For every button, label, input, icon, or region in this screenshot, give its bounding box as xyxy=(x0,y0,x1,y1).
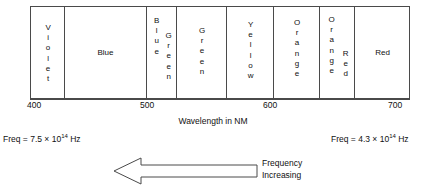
band-label-blue: Blue xyxy=(65,48,146,56)
frequency-label-left: Freq = 7.5 × 1014 Hz xyxy=(3,134,81,144)
band-label-red: Red xyxy=(355,48,410,56)
wavelength-axis-line xyxy=(30,99,410,100)
band-red: Red xyxy=(355,7,410,98)
band-label-yellow: Yellow xyxy=(246,20,254,81)
band-blue: Blue xyxy=(65,7,147,98)
arrow-caption: Frequency Increasing xyxy=(262,158,302,181)
band-label-green: Green xyxy=(164,31,172,82)
band-orange-red: Orange Red xyxy=(320,7,355,98)
frequency-left-exponent: 14 xyxy=(61,133,68,139)
frequency-right-text: Freq = 4.3 × 10 xyxy=(331,134,389,144)
band-yellow: Yellow xyxy=(227,7,274,98)
band-orange: Orange xyxy=(274,7,320,98)
band-green: Green xyxy=(177,7,227,98)
spectrum-figure: Violet Blue Blue Green Green Yellow Oran… xyxy=(0,0,426,189)
axis-tick-500: 500 xyxy=(140,100,154,110)
band-label-orange: Orange xyxy=(327,15,335,76)
band-label-blue: Blue xyxy=(152,16,160,57)
frequency-increasing-arrow xyxy=(113,157,258,185)
arrow-caption-line1: Frequency xyxy=(262,158,302,170)
band-label-red: Red xyxy=(341,49,349,80)
left-arrow-icon xyxy=(113,157,258,185)
frequency-right-unit: Hz xyxy=(396,134,409,144)
frequency-label-right: Freq = 4.3 × 1014 Hz xyxy=(331,134,409,144)
band-blue-green: Blue Green xyxy=(147,7,177,98)
spectrum-band-box: Violet Blue Blue Green Green Yellow Oran… xyxy=(30,6,410,99)
axis-tick-600: 600 xyxy=(263,100,277,110)
band-label-green: Green xyxy=(197,26,205,77)
band-label-violet: Violet xyxy=(43,23,51,84)
axis-tick-400: 400 xyxy=(27,100,41,110)
band-violet: Violet xyxy=(31,7,65,98)
band-label-orange: Orange xyxy=(292,18,300,79)
axis-tick-700: 700 xyxy=(388,100,402,110)
frequency-left-unit: Hz xyxy=(68,134,81,144)
arrow-caption-line2: Increasing xyxy=(262,170,302,182)
axis-title: Wavelength in NM xyxy=(0,116,426,126)
frequency-right-exponent: 14 xyxy=(389,133,396,139)
frequency-left-text: Freq = 7.5 × 10 xyxy=(3,134,61,144)
